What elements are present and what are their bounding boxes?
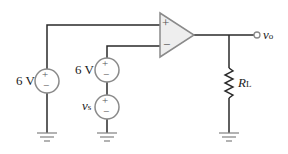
wires [47, 25, 229, 133]
vo-label-sub: o [269, 31, 274, 41]
left-source-label: 6 V [16, 74, 35, 87]
ground-icons [37, 133, 239, 141]
resistor-icon [225, 68, 233, 98]
opamp-minus: − [163, 38, 170, 51]
mid-source-label: 6 V [75, 63, 94, 76]
vs-label-sub: s [88, 102, 92, 112]
output-terminal [254, 32, 260, 38]
rl-label-sub: L [246, 79, 252, 89]
opamp-plus: + [162, 16, 169, 29]
rl-label: RL [238, 76, 251, 89]
left-source-minus: − [43, 80, 49, 91]
circuit-diagram: + − + − + − + − 6 V 6 V vs vo RL [0, 0, 288, 154]
rl-label-main: R [238, 75, 246, 90]
vs-label: vs [82, 99, 91, 112]
vs-source-minus: − [103, 106, 109, 117]
mid-source-minus: − [103, 69, 109, 80]
vo-label: vo [263, 28, 273, 41]
